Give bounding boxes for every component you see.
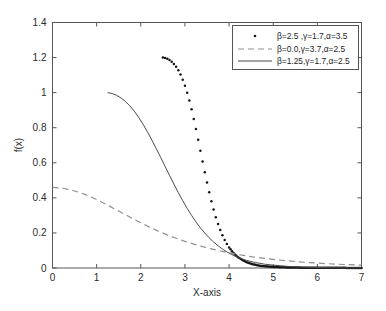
data-point xyxy=(195,128,198,131)
data-point xyxy=(173,63,176,66)
chart-figure: 01234567 00.20.40.60.811.21.4 X-axis f(x… xyxy=(0,0,386,311)
y-tick-label: 0.2 xyxy=(33,227,47,238)
data-point xyxy=(188,99,191,102)
y-tick-label: 0.4 xyxy=(33,192,47,203)
x-axis-title: X-axis xyxy=(193,287,221,298)
data-point xyxy=(179,73,182,76)
x-tick-label: 6 xyxy=(315,272,321,283)
legend-label: β=2.5 ,γ=1.7,α=3.5 xyxy=(277,31,348,41)
data-point xyxy=(166,58,169,61)
y-tick-label: 0 xyxy=(41,263,47,274)
data-point xyxy=(184,84,187,87)
legend-label: β=1.25,γ=1.7,α=2.5 xyxy=(277,56,350,66)
data-point xyxy=(199,149,202,152)
y-tick-label: 1.4 xyxy=(33,17,47,28)
data-point xyxy=(206,181,209,184)
data-point xyxy=(175,66,178,69)
y-tick-label: 0.6 xyxy=(33,157,47,168)
legend: β=2.5 ,γ=1.7,α=3.5β=0.0,γ=3.7,α=2.5β=1.2… xyxy=(233,26,359,70)
data-point xyxy=(208,191,211,194)
y-axis-title: f(x) xyxy=(13,138,24,152)
plot-canvas: 01234567 00.20.40.60.811.21.4 X-axis f(x… xyxy=(0,0,386,311)
data-point xyxy=(186,91,189,94)
x-tick-label: 7 xyxy=(359,272,365,283)
legend-sample-dotted xyxy=(254,35,257,38)
y-tick-label: 1.2 xyxy=(33,52,47,63)
data-point xyxy=(168,59,171,62)
y-tick-label: 1 xyxy=(41,87,47,98)
data-point xyxy=(212,208,215,211)
data-point xyxy=(210,200,213,203)
x-tick-label: 0 xyxy=(50,272,56,283)
data-point xyxy=(162,56,165,59)
data-point xyxy=(217,223,220,226)
data-point xyxy=(215,216,218,219)
y-tick-label: 0.8 xyxy=(33,122,47,133)
x-tick-label: 3 xyxy=(182,272,188,283)
data-point xyxy=(226,243,229,246)
data-point xyxy=(164,57,167,60)
data-point xyxy=(223,239,226,242)
data-point xyxy=(201,160,204,163)
data-point xyxy=(204,171,207,174)
data-point xyxy=(221,234,224,237)
data-point xyxy=(193,118,196,121)
data-point xyxy=(181,78,184,81)
legend-label: β=0.0,γ=3.7,α=2.5 xyxy=(277,44,345,54)
data-point xyxy=(219,229,222,232)
data-point xyxy=(177,69,180,72)
x-tick-label: 2 xyxy=(138,272,144,283)
data-point xyxy=(197,139,200,142)
data-point xyxy=(170,61,173,64)
x-tick-label: 4 xyxy=(226,272,232,283)
data-point xyxy=(190,108,193,111)
x-tick-label: 5 xyxy=(270,272,276,283)
x-tick-label: 1 xyxy=(94,272,100,283)
